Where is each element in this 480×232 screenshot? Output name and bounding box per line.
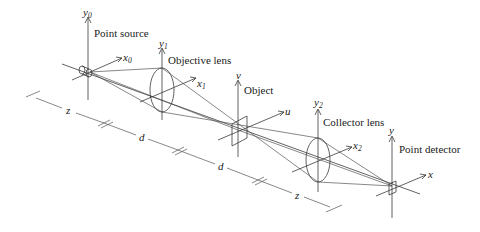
x2-label: x2 (352, 139, 362, 153)
object: v Object u (218, 69, 291, 157)
y2-label: y2 (313, 96, 323, 110)
x1-label: x1 (196, 77, 206, 91)
collector-lens-label: Collector lens (323, 116, 384, 128)
collector-lens: y2 Collector lens x2 (292, 96, 384, 192)
distance-label-d1: d (139, 131, 145, 143)
x0-label: x0 (122, 51, 132, 65)
point-detector-label: Point detector (399, 143, 461, 155)
y0-label: y0 (82, 6, 92, 20)
x1-axis (140, 78, 196, 102)
point-detector: y Point detector x (376, 124, 461, 218)
object-label: Object (244, 84, 273, 96)
y-label: y (388, 124, 394, 136)
objective-lens-label: Objective lens (168, 54, 231, 66)
confocal-diagram: y0 Point source x0 y1 Objective lens x1 … (0, 0, 480, 232)
distance-label-z1: z (65, 104, 71, 116)
optical-axis (62, 64, 420, 194)
point-source-label: Point source (94, 27, 149, 39)
distance-label-z2: z (294, 189, 300, 201)
y1-label: y1 (158, 37, 168, 51)
x-label: x (427, 168, 433, 180)
distance-label-d2: d (218, 160, 224, 172)
u-label: u (285, 105, 291, 117)
v-label: v (236, 69, 241, 81)
point-source: y0 Point source x0 (72, 6, 149, 100)
